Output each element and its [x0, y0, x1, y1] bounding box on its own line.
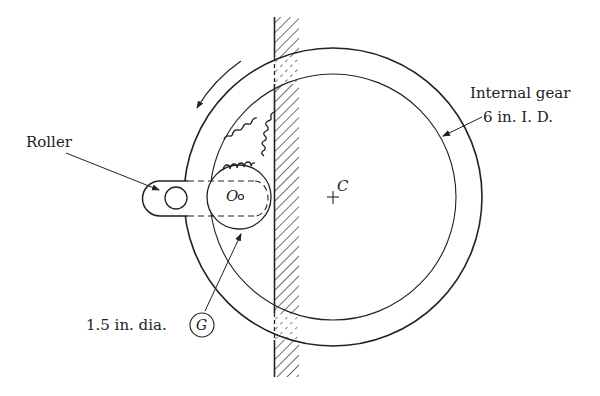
- label-ring-center-c: C: [337, 178, 348, 195]
- gear-mechanism-diagram: Roller Internal gear 6 in. I. D. 1.5 in.…: [0, 0, 600, 396]
- label-gear-g: G: [196, 317, 207, 334]
- rack-teeth: [262, 112, 274, 156]
- pinion-gear-g: [207, 162, 271, 229]
- label-internal-gear-dia: 6 in. I. D.: [483, 109, 553, 126]
- label-roller: Roller: [26, 134, 72, 151]
- label-gear-center-o: O: [226, 188, 238, 205]
- label-internal-gear: Internal gear: [470, 85, 570, 102]
- internal-gear-teeth: [224, 118, 257, 139]
- wall-guide: [274, 17, 299, 377]
- label-gear-diameter: 1.5 in. dia.: [86, 317, 167, 334]
